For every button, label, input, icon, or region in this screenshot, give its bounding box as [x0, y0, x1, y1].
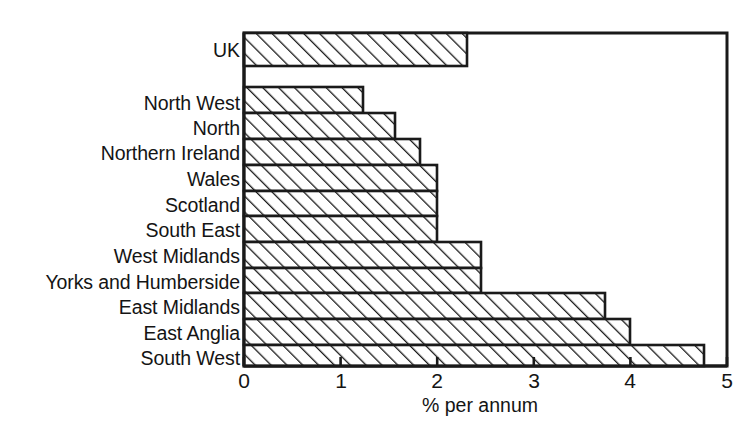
bar-chart: UK North West North Northern Ireland Wal…	[0, 0, 741, 431]
bar-northern-ireland	[244, 139, 420, 165]
plot-area	[0, 0, 741, 431]
bar-west-midlands	[244, 242, 481, 268]
x-tick-label-5: 5	[707, 370, 741, 391]
bar-yorks-and-humberside	[244, 268, 481, 293]
bar-uk	[244, 33, 467, 66]
bar-wales	[244, 165, 437, 191]
bar-east-midlands	[244, 293, 605, 319]
bar-north	[244, 113, 395, 139]
x-tick-label-4: 4	[610, 370, 650, 391]
bar-north-west	[244, 87, 363, 113]
bar-south-west	[244, 345, 704, 366]
bar-scotland	[244, 191, 437, 216]
x-tick-label-1: 1	[321, 370, 361, 391]
x-axis-title: % per annum	[380, 394, 580, 416]
bar-east-anglia	[244, 319, 630, 345]
x-tick-label-3: 3	[514, 370, 554, 391]
bar-south-east	[244, 216, 437, 242]
x-tick-label-0: 0	[224, 370, 264, 391]
x-tick-label-2: 2	[417, 370, 457, 391]
